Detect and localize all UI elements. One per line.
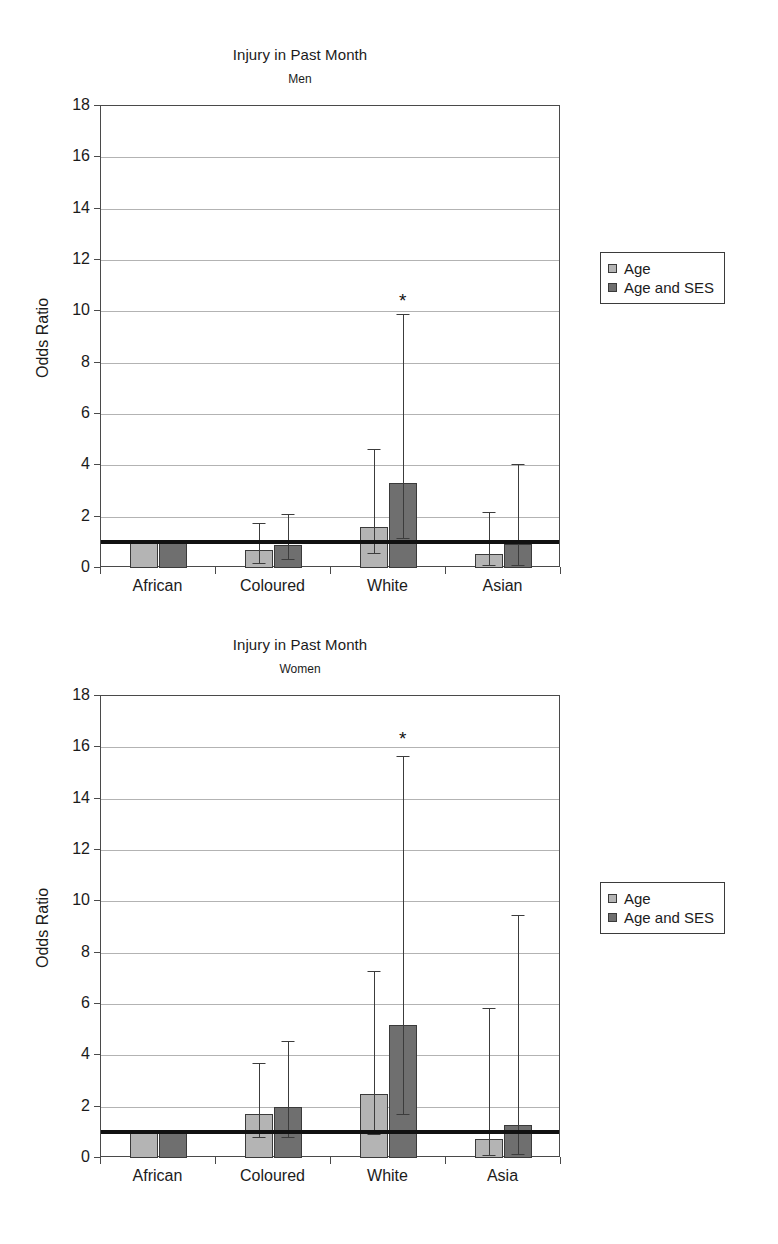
x-axis-tick-label: Asian [482,577,522,595]
x-axis-tick-mark [215,1157,216,1164]
gridline [101,901,559,902]
error-bar-cap-lower [511,1154,524,1155]
error-bar-stem [288,1041,289,1137]
legend-swatch-icon [608,913,617,922]
y-axis-tick-label: 16 [56,147,90,165]
error-bar-cap-upper [281,1041,294,1042]
error-bar-stem [374,971,375,1134]
error-bar-stem [403,314,404,539]
legend-item-age-and-ses[interactable]: Age and SES [608,908,714,927]
x-axis-tick-mark [100,1157,101,1164]
error-bar-cap-upper [396,314,409,315]
error-bar-cap-upper [368,449,381,450]
error-bar-cap-lower [483,565,496,566]
y-axis-tick-mark [94,105,100,106]
legend-women: AgeAge and SES [600,882,725,934]
error-bar-cap-lower [396,1114,409,1115]
y-axis-label: Odds Ratio [34,298,52,378]
x-axis-tick-mark [330,567,331,574]
y-axis-tick-mark [94,413,100,414]
y-axis-tick-label: 6 [56,994,90,1012]
significance-star: * [399,291,406,310]
plot-area-men: *024681012141618Odds RatioAfricanColoure… [0,30,778,627]
y-axis-label: Odds Ratio [34,888,52,968]
error-bar-stem [374,449,375,553]
y-axis-tick-label: 4 [56,455,90,473]
gridline [101,465,559,466]
y-axis-tick-mark [94,156,100,157]
y-axis-tick-mark [94,952,100,953]
legend-item-age[interactable]: Age [608,889,714,908]
gridline [101,747,559,748]
legend-men: AgeAge and SES [600,252,725,304]
legend-swatch-icon [608,283,617,292]
y-axis-tick-mark [94,1106,100,1107]
y-axis-tick-mark [94,1003,100,1004]
x-axis-tick-label: African [133,1167,183,1185]
y-axis-tick-label: 14 [56,199,90,217]
error-bar-cap-upper [483,512,496,513]
legend-item-age-and-ses[interactable]: Age and SES [608,278,714,297]
reference-line-or-1 [101,540,559,544]
y-axis-tick-mark [94,516,100,517]
y-axis-tick-label: 18 [56,96,90,114]
gridline [101,311,559,312]
y-axis-tick-label: 16 [56,737,90,755]
x-axis-tick-label: Coloured [240,577,305,595]
x-axis-tick-label: White [367,577,408,595]
bar-african-age [130,1132,158,1158]
error-bar-cap-upper [483,1008,496,1009]
y-axis-tick-label: 8 [56,353,90,371]
x-axis-tick-mark [445,1157,446,1164]
error-bar-stem [259,1063,260,1137]
y-axis-tick-mark [94,310,100,311]
bar-african-age [130,542,158,568]
error-bar-cap-upper [511,915,524,916]
y-axis-tick-label: 8 [56,943,90,961]
x-axis-tick-label: White [367,1167,408,1185]
error-bar-stem [403,756,404,1114]
error-bar-cap-lower [368,553,381,554]
reference-line-or-1 [101,1130,559,1134]
gridline [101,414,559,415]
gridline [101,209,559,210]
plot-box-men: * [100,105,560,567]
gridline [101,260,559,261]
y-axis-tick-label: 2 [56,507,90,525]
error-bar-cap-lower [396,538,409,539]
legend-swatch-icon [608,894,617,903]
y-axis-tick-mark [94,208,100,209]
legend-label: Age and SES [624,909,714,926]
y-axis-tick-mark [94,849,100,850]
error-bar-cap-lower [253,563,266,564]
bar-african-age-and-ses [159,1132,187,1158]
plot-box-women: * [100,695,560,1157]
error-bar-stem [288,514,289,559]
figure-page: Injury in Past Month Men *02468101214161… [0,0,778,1244]
y-axis-tick-label: 18 [56,686,90,704]
x-axis-tick-mark [445,567,446,574]
gridline [101,850,559,851]
legend-label: Age and SES [624,279,714,296]
y-axis-tick-mark [94,798,100,799]
plot-area-women: *024681012141618Odds RatioAfricanColoure… [0,620,778,1217]
error-bar-cap-lower [483,1155,496,1156]
error-bar-stem [518,464,519,565]
y-axis-tick-label: 12 [56,250,90,268]
legend-label: Age [624,260,651,277]
error-bar-cap-upper [253,523,266,524]
error-bar-cap-lower [253,1137,266,1138]
legend-swatch-icon [608,264,617,273]
chart-women: Injury in Past Month Women *024681012141… [0,620,778,1220]
y-axis-tick-mark [94,695,100,696]
legend-item-age[interactable]: Age [608,259,714,278]
gridline [101,1004,559,1005]
error-bar-cap-upper [281,514,294,515]
error-bar-cap-upper [511,464,524,465]
y-axis-tick-mark [94,746,100,747]
y-axis-tick-mark [94,900,100,901]
error-bar-cap-lower [281,559,294,560]
error-bar-stem [489,512,490,566]
significance-star: * [399,729,406,748]
x-axis-tick-mark [100,567,101,574]
